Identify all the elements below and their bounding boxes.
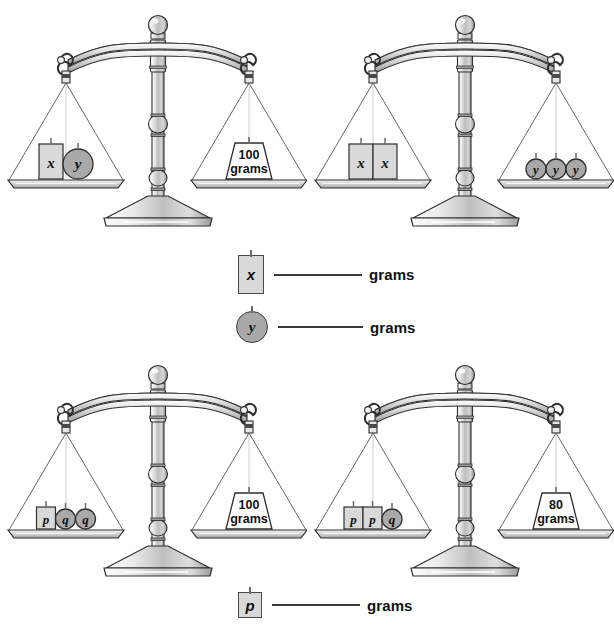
chip-p: p — [238, 592, 262, 618]
scale-arm: xx — [315, 54, 431, 188]
block-label-p: p — [349, 512, 357, 527]
finial-ball — [149, 366, 168, 385]
block-label-p: p — [42, 512, 50, 527]
scale-arm: 100grams — [191, 404, 307, 538]
knob-body — [149, 465, 168, 483]
answer-blank-x[interactable] — [274, 274, 362, 276]
balance-scale-bottom-right: ppq80grams — [307, 350, 614, 580]
answer-blank-p[interactable] — [272, 604, 360, 606]
chip-tab-icon — [250, 250, 252, 257]
answer-row-x: x grams — [238, 255, 415, 294]
pivot-ring — [457, 416, 474, 418]
column-knob — [456, 520, 474, 536]
column-ring — [151, 518, 165, 520]
column-ring — [458, 538, 472, 540]
column-ring — [151, 538, 165, 540]
column-knob — [149, 465, 168, 483]
knob-body — [149, 115, 168, 133]
chip-y: y — [236, 311, 268, 343]
answer-unit-x: grams — [369, 266, 415, 283]
scale-drawing: xy100grams — [0, 0, 307, 230]
hook-eye — [241, 57, 248, 64]
scale-drawing: ppq80grams — [307, 350, 614, 580]
knob-body — [456, 465, 475, 483]
scale-pan — [315, 180, 431, 188]
disc-label-y: y — [551, 162, 559, 177]
column-ring — [458, 464, 472, 466]
disc-label-q: q — [82, 512, 89, 527]
hanger-clip-band — [369, 74, 377, 78]
column-ring — [151, 484, 165, 486]
column-knob — [149, 520, 167, 536]
pivot-ring — [150, 416, 167, 418]
column-ring — [458, 168, 472, 170]
hook-eye — [58, 407, 65, 414]
chip-label-y: y — [249, 319, 256, 336]
hanger-clip-band — [552, 424, 560, 428]
column-knob — [456, 115, 475, 133]
scale-arm: 100grams — [191, 54, 307, 188]
pan-contents: 100grams — [226, 487, 272, 529]
weight-unit: grams — [537, 512, 575, 526]
scale-column — [149, 52, 168, 204]
scale-column — [456, 402, 475, 554]
pan-contents: yyy — [526, 153, 586, 179]
answer-unit-p: grams — [367, 597, 413, 614]
chip-x: x — [238, 255, 264, 294]
knob-body — [456, 115, 475, 133]
weight-value: 80 — [549, 498, 563, 512]
scale-pan — [498, 530, 614, 538]
answer-row-p: p grams — [238, 592, 413, 618]
column-knob — [149, 115, 168, 133]
column-ring — [458, 484, 472, 486]
scale-drawing: pqq100grams — [0, 350, 307, 580]
scale-pan — [315, 530, 431, 538]
hook-eye — [548, 407, 555, 414]
answer-blank-y[interactable] — [278, 326, 363, 328]
hook-eye — [241, 407, 248, 414]
weight-unit: grams — [230, 162, 268, 176]
base-cone — [106, 196, 210, 218]
finial-highlight — [152, 368, 159, 373]
scale-pan — [8, 530, 124, 538]
scale-arm: ppq — [315, 404, 431, 538]
pan-contents: xx — [349, 138, 397, 179]
disc-label-y: y — [571, 162, 579, 177]
scale-arm: pqq — [8, 404, 124, 538]
column-ring — [151, 188, 165, 190]
column-knob — [456, 170, 474, 186]
scale-pan — [191, 180, 307, 188]
block-label-p: p — [368, 512, 376, 527]
scale-column — [149, 402, 168, 554]
finial-highlight — [459, 368, 466, 373]
weight-unit: grams — [230, 512, 268, 526]
scale-pan — [8, 180, 124, 188]
finial-ball — [456, 16, 475, 35]
column-ring — [151, 134, 165, 136]
finial-ball — [456, 366, 475, 385]
hanger-clip-band — [245, 424, 253, 428]
scale-drawing: xxyyy — [307, 0, 614, 230]
hook-eye — [365, 407, 372, 414]
pan-contents: pqq — [37, 501, 96, 529]
base-cone — [106, 546, 210, 568]
scale-base — [411, 546, 519, 576]
chip-label-x: x — [247, 266, 255, 283]
knob-body — [149, 170, 167, 186]
finial-highlight — [459, 18, 466, 23]
block-label-x: x — [380, 155, 389, 171]
pan-contents: 80grams — [533, 487, 579, 529]
balance-scale-top-left: xy100grams — [0, 0, 307, 230]
block-label-x: x — [46, 155, 55, 171]
pivot-ring — [150, 66, 167, 68]
scale-arm: yyy — [498, 54, 614, 188]
column-ring — [458, 114, 472, 116]
hanger-clip-band — [245, 74, 253, 78]
pan-contents: 100grams — [226, 137, 272, 179]
hanger-clip-band — [369, 424, 377, 428]
knob-body — [149, 520, 167, 536]
scale-base — [104, 196, 212, 226]
hook-eye — [365, 57, 372, 64]
scale-column — [456, 52, 475, 204]
column-ring — [458, 134, 472, 136]
